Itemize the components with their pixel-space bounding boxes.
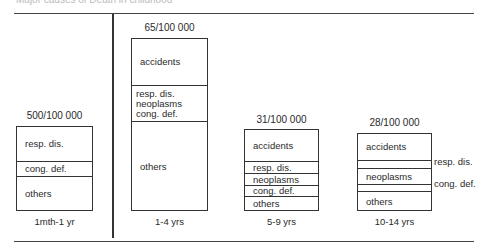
- segment-label: neoplasms: [253, 175, 299, 185]
- segment-others: others: [358, 191, 431, 211]
- segment-resp-dis: resp. dis.: [17, 127, 92, 161]
- segment-label: accidents: [140, 57, 180, 67]
- bottom-rule: [14, 241, 474, 242]
- segment-label: others: [25, 189, 51, 199]
- segment-others: others: [245, 196, 318, 211]
- segment-label: resp. dis.: [253, 163, 292, 173]
- rate-label: 28/100 000: [357, 117, 432, 128]
- age-label: 1-4 yrs: [131, 216, 208, 227]
- segment-label: neoplasms: [136, 99, 182, 109]
- external-label-resp-dis: resp. dis.: [434, 156, 473, 167]
- segment-label: resp. dis.: [25, 139, 64, 149]
- segment-label: cong. def.: [25, 164, 67, 174]
- segment-label: accidents: [366, 142, 406, 152]
- top-rule: [14, 13, 474, 14]
- segment-label: cong. def.: [136, 109, 178, 119]
- cause-box-1mth-1yr: resp. dis. cong. def. others: [16, 126, 93, 211]
- rate-label: 500/100 000: [16, 110, 93, 121]
- figure-title: Major causes of Death in childhood: [16, 0, 172, 5]
- segment-accidents: accidents: [132, 39, 207, 85]
- segment-label: others: [140, 162, 166, 172]
- rate-label: 65/100 000: [131, 22, 208, 33]
- segment-label: others: [253, 199, 279, 209]
- external-label-cong-def: cong. def.: [434, 178, 476, 189]
- cause-box-5-9yrs: accidents resp. dis. neoplasms cong. def…: [244, 129, 319, 211]
- segment-neoplasms: neoplasms: [358, 168, 431, 184]
- segment-resp-dis: [358, 160, 431, 168]
- segment-others: others: [17, 176, 92, 211]
- segment-label: others: [366, 197, 392, 207]
- segment-label: accidents: [253, 141, 293, 151]
- segment-cong-def: [358, 184, 431, 191]
- divider-line: [112, 14, 114, 238]
- segment-cong-def: cong. def.: [17, 161, 92, 176]
- segment-label: cong. def.: [253, 186, 295, 196]
- age-label: 1mth-1 yr: [16, 216, 93, 227]
- cause-box-1-4yrs: accidents resp. dis. neoplasms cong. def…: [131, 38, 208, 211]
- cause-box-10-14yrs: accidents neoplasms others: [357, 133, 432, 211]
- rate-label: 31/100 000: [244, 114, 319, 125]
- segment-accidents: accidents: [358, 134, 431, 160]
- age-label: 10-14 yrs: [357, 216, 432, 227]
- segment-resp-neo-cong: resp. dis. neoplasms cong. def.: [132, 85, 207, 121]
- segment-others: others: [132, 121, 207, 211]
- segment-neoplasms: neoplasms: [245, 173, 318, 185]
- segment-label: resp. dis.: [136, 89, 175, 99]
- segment-resp-dis: resp. dis.: [245, 161, 318, 173]
- age-label: 5-9 yrs: [244, 216, 319, 227]
- segment-label: neoplasms: [366, 172, 412, 182]
- segment-cong-def: cong. def.: [245, 185, 318, 196]
- segment-accidents: accidents: [245, 130, 318, 161]
